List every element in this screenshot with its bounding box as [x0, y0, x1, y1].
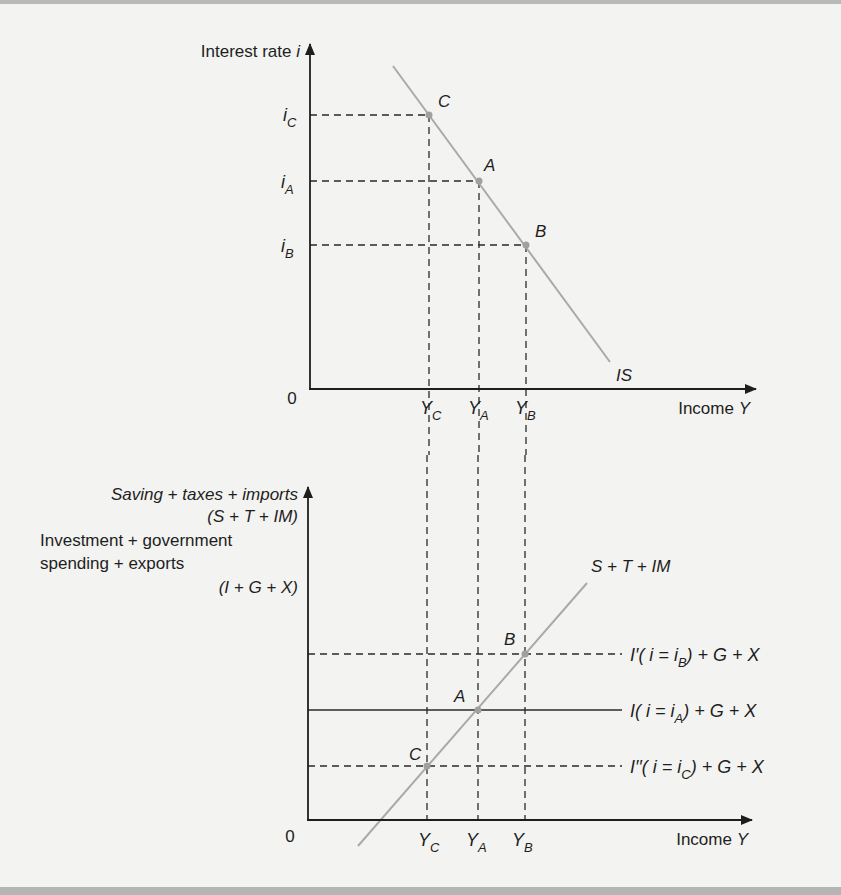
bottom-x-axis-label: Income Y [676, 830, 749, 849]
top-x-axis-label: Income Y [678, 399, 751, 418]
point-b-bottom [522, 651, 529, 658]
point-c-bottom-label: C [409, 745, 422, 764]
line-i-a-label: I( i = iA) + G + X [630, 701, 757, 726]
point-b [523, 242, 530, 249]
is-curve-label: IS [616, 366, 633, 385]
bottom-y-label-line5: (I + G + X) [219, 578, 298, 597]
point-a-bottom-label: A [453, 687, 465, 706]
tick-ic: iC [283, 105, 297, 130]
tick-ia: iA [281, 172, 294, 197]
point-c-bottom [424, 763, 431, 770]
line-i-double-prime-c-label: I′′( i = iC) + G + X [630, 757, 765, 782]
bottom-graph: Saving + taxes + imports (S + T + IM) In… [40, 485, 765, 855]
bottom-y-label-line3: Investment + government [40, 531, 233, 550]
tick-yb-bottom: YB [512, 830, 533, 855]
point-b-label: B [535, 222, 546, 241]
point-b-bottom-label: B [504, 630, 515, 649]
bottom-y-label-line4: spending + exports [40, 554, 184, 573]
bottom-y-label-line1: Saving + taxes + imports [111, 485, 299, 504]
is-curve-figure: Interest rate i 0 Income Y IS iC iA iB Y… [0, 0, 841, 895]
top-y-axis-label: Interest rate i [201, 42, 301, 61]
stim-curve-label: S + T + IM [591, 557, 671, 576]
line-i-prime-b-label: I′( i = iB) + G + X [630, 645, 761, 670]
is-curve [393, 66, 610, 362]
tick-yc-top: YC [420, 398, 442, 423]
point-a-bottom [475, 707, 482, 714]
point-c [426, 112, 433, 119]
tick-ib: iB [281, 236, 294, 261]
top-origin-label: 0 [287, 389, 296, 408]
point-a-label: A [483, 156, 495, 175]
point-a [476, 178, 483, 185]
bottom-origin-label: 0 [285, 827, 294, 846]
stim-curve [358, 583, 587, 846]
tick-ya-bottom: YA [466, 830, 487, 855]
tick-ya-top: YA [468, 398, 489, 423]
bottom-y-label-line2: (S + T + IM) [207, 507, 298, 526]
point-c-label: C [438, 92, 451, 111]
tick-yc-bottom: YC [418, 830, 440, 855]
